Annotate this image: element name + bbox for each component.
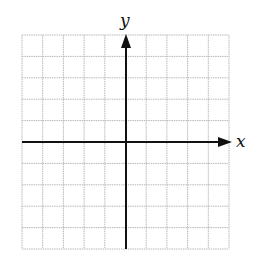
coordinate-plane: x y bbox=[0, 0, 253, 260]
y-axis-arrow-icon bbox=[121, 34, 131, 48]
y-axis-label: y bbox=[119, 10, 130, 30]
x-axis-arrow-icon bbox=[218, 137, 232, 147]
x-axis-label: x bbox=[236, 131, 246, 151]
